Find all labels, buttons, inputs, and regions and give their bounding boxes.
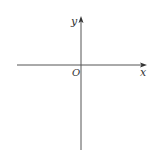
- x-axis-label: x: [140, 67, 146, 78]
- origin-label: O: [72, 67, 80, 78]
- y-axis-arrow-icon: [79, 16, 84, 23]
- y-axis-label: y: [71, 16, 77, 27]
- coordinate-plane: y O x: [0, 0, 153, 157]
